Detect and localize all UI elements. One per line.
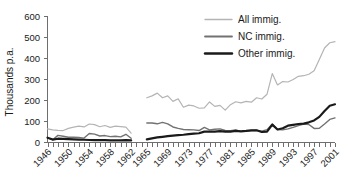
legend-label-other-immig: Other immig.	[238, 48, 295, 59]
y-tick-label: 100	[24, 116, 40, 127]
y-tick-label: 500	[24, 32, 40, 43]
y-tick-label: 0	[35, 137, 40, 148]
y-axis-title: Thousands p.a.	[4, 48, 15, 117]
immigration-line-chart: Thousands p.a. 0 100 200 300 400 500 600…	[0, 0, 345, 189]
y-tick-label: 600	[24, 11, 40, 22]
y-tick-label: 400	[24, 53, 40, 64]
y-tick-label: 200	[24, 95, 40, 106]
y-tick-label: 300	[24, 74, 40, 85]
legend-label-nc-immig: NC immig.	[238, 31, 285, 42]
legend-label-all-immig: All immig.	[238, 14, 281, 25]
